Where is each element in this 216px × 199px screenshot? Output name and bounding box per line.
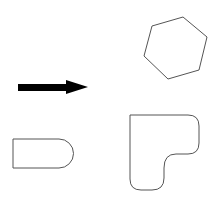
bullet-shape — [13, 139, 74, 168]
arrow-right-icon — [18, 80, 88, 94]
diagram-canvas — [0, 0, 216, 199]
l-shape — [130, 115, 199, 190]
shapes-diagram — [0, 0, 216, 199]
hexagon-shape — [144, 17, 207, 79]
